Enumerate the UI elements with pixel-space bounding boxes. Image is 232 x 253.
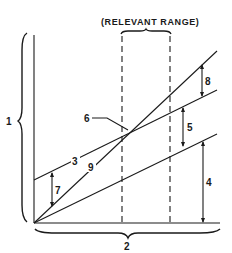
relevant-range-title: (RELEVANT RANGE) <box>101 17 199 27</box>
label-5: 5 <box>187 122 193 133</box>
x-axis-brace <box>35 229 220 238</box>
leader-6 <box>92 118 128 130</box>
label-7: 7 <box>55 185 61 196</box>
label-8: 8 <box>205 76 211 87</box>
line-3 <box>34 90 217 180</box>
cost-volume-diagram: (RELEVANT RANGE) 1 2 3 4 5 6 7 8 9 <box>0 0 232 253</box>
label-4: 4 <box>206 177 212 188</box>
label-9: 9 <box>88 162 94 173</box>
variable-cost-line <box>34 134 217 223</box>
label-6: 6 <box>84 113 90 124</box>
line-9 <box>34 51 217 223</box>
label-1: 1 <box>6 116 12 127</box>
label-3: 3 <box>72 156 78 167</box>
y-axis-brace <box>18 33 27 222</box>
relevant-range-brace <box>121 29 171 34</box>
label-2: 2 <box>124 241 130 252</box>
